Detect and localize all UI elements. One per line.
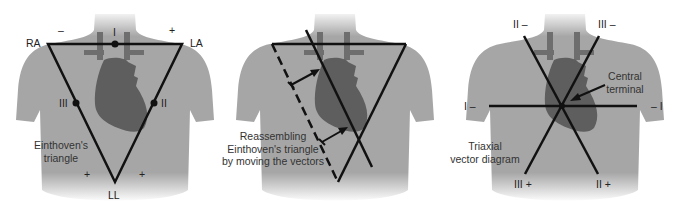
caption-einthoven-triangle: Einthoven's triangle [26, 139, 96, 164]
label-plus-left: + [84, 168, 90, 180]
caption-reassembling: Reassembling Einthoven's triangle by mov… [218, 130, 328, 168]
panel-einthoven-triangle: RA LA LL I III II – + + + Einthoven's tr… [0, 0, 230, 207]
label-ll: LL [108, 189, 120, 201]
label-i-minus-left: I – [464, 100, 476, 112]
panel-triaxial: II – III – I – – I III + II + Central te… [450, 0, 683, 207]
label-lead-i: I [113, 26, 116, 38]
label-iii-minus: III – [598, 18, 616, 30]
lead-iii-dot [73, 100, 80, 107]
central-terminal-dot [559, 103, 565, 109]
label-la: LA [190, 37, 203, 49]
label-plus-right: + [139, 168, 145, 180]
label-ii-plus: II + [596, 178, 611, 190]
label-plus-top: + [169, 24, 175, 36]
torso-heart-illustration [450, 0, 683, 207]
lead-ii-dot [151, 100, 158, 107]
label-iii-plus: III + [514, 178, 532, 190]
annotation-central-terminal: Central terminal [602, 70, 648, 95]
label-lead-ii: II [161, 97, 167, 109]
panel-reassembling: Reassembling Einthoven's triangle by mov… [220, 0, 450, 207]
label-minus-top: – [58, 24, 64, 36]
label-lead-iii: III [59, 97, 68, 109]
label-ii-minus: II – [513, 18, 528, 30]
lead-i-dot [112, 41, 119, 48]
torso-heart-illustration [220, 0, 450, 207]
caption-triaxial: Triaxial vector diagram [446, 140, 524, 165]
label-minus-i-right: – I [651, 100, 663, 112]
label-ra: RA [26, 37, 41, 49]
